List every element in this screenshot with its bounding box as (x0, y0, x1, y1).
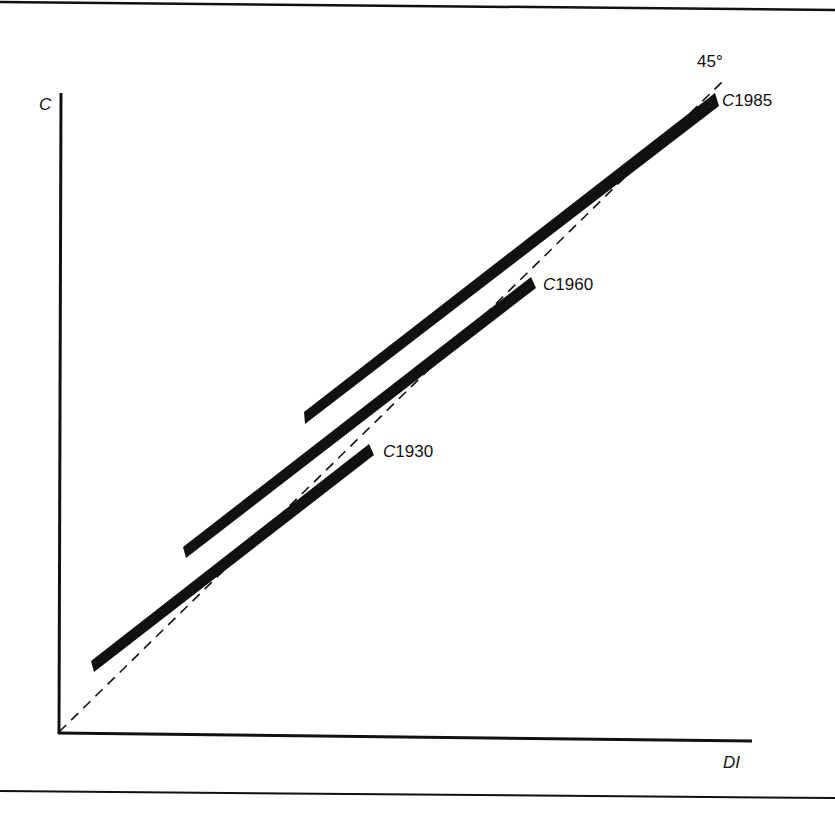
series-c1960-segment (183, 277, 536, 558)
series-label-c1985: C1985 (722, 91, 772, 110)
series-c1930-segment (91, 444, 374, 672)
consumption-function-chart: C DI 45° C1985 C1960 C1930 (0, 0, 835, 814)
y-axis (59, 93, 61, 734)
x-axis (58, 733, 752, 741)
reference-line-label: 45° (697, 52, 723, 71)
bottom-border-rule (0, 791, 835, 798)
series-label-c1960: C1960 (543, 275, 593, 294)
x-axis-label: DI (723, 753, 740, 772)
y-axis-label: C (39, 95, 52, 114)
top-border-rule (0, 2, 835, 10)
series-c1985-segment (304, 93, 719, 424)
series-label-c1930: C1930 (383, 442, 433, 461)
